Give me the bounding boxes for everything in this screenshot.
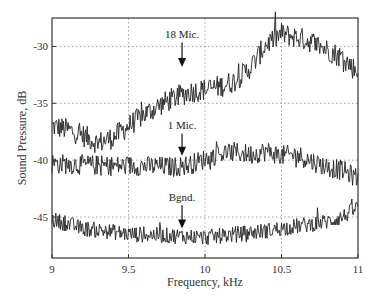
annotations: 18 Mic.1 Mic.Bgnd. xyxy=(165,28,199,228)
y-tick-label: -30 xyxy=(33,40,48,52)
y-tick-label: -35 xyxy=(33,97,48,109)
x-tick-label: 11 xyxy=(353,263,364,275)
annotation-label: Bgnd. xyxy=(169,191,196,203)
x-axis-ticks: 99.51010.511 xyxy=(49,254,363,275)
arrow-head-icon xyxy=(178,58,186,67)
y-tick-label: -40 xyxy=(33,154,48,166)
line-chart: -30-35-40-45 99.51010.511 18 Mic.1 Mic.B… xyxy=(0,0,377,298)
x-tick-label: 10 xyxy=(200,263,212,275)
x-tick-label: 9 xyxy=(49,263,55,275)
series-line-bgnd xyxy=(52,199,358,245)
annotation-label: 18 Mic. xyxy=(165,28,199,40)
x-axis-label: Frequency, kHz xyxy=(167,275,243,289)
x-tick-label: 9.5 xyxy=(122,263,136,275)
y-tick-label: -45 xyxy=(33,211,48,223)
x-tick-label: 10.5 xyxy=(272,263,292,275)
annotation-label: 1 Mic. xyxy=(168,119,197,131)
arrow-head-icon xyxy=(178,147,186,156)
y-axis-label: Sound Pressure, dB xyxy=(15,91,29,185)
arrow-head-icon xyxy=(178,219,186,228)
